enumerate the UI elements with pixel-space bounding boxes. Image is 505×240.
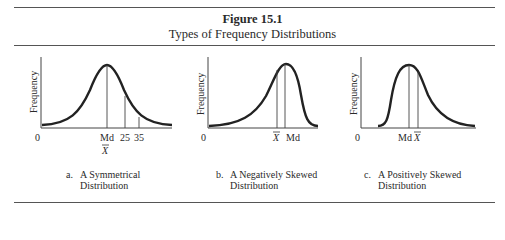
xbar-label-a: X: [101, 145, 109, 156]
caption-c: c.A Positively SkewedDistribution: [364, 169, 461, 191]
md-label-b: Md: [286, 132, 300, 143]
chart-a-symmetrical: Frequency 0 Md 25 35 X: [28, 57, 172, 156]
tick-35: 35: [134, 132, 144, 143]
xbar-label-b: X: [272, 132, 280, 143]
tick-25: 25: [120, 132, 130, 143]
bottom-rule: [14, 202, 495, 203]
y-axis-label-b: Frequency: [195, 73, 206, 115]
chart-c-positive-skew: Frequency 0 Md X: [348, 57, 476, 143]
md-label-c: Md: [398, 132, 412, 143]
chart-b-negative-skew: Frequency 0 X Md: [195, 57, 318, 143]
caption-b: b.A Negatively SkewedDistribution: [216, 169, 317, 191]
y-axis-label-a: Frequency: [28, 71, 39, 113]
xbar-label-c: X: [413, 132, 421, 143]
md-label-a: Md: [100, 132, 114, 143]
zero-label-b: 0: [201, 132, 206, 143]
zero-label-c: 0: [355, 132, 360, 143]
zero-label-a: 0: [35, 132, 40, 143]
y-axis-label-c: Frequency: [348, 73, 359, 115]
caption-a: a.A SymmetricalDistribution: [66, 169, 140, 191]
